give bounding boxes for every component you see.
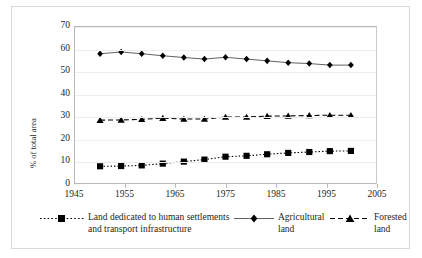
data-point-marker [202, 56, 208, 63]
legend-item-settlements[interactable]: Land dedicated to human settlements and … [40, 212, 240, 235]
y-tick-label: 40 [44, 89, 70, 99]
legend-label-settlements-line2: and transport infrastructure [88, 224, 240, 236]
y-axis-tick-labels: 010203040506070 [40, 7, 70, 203]
y-tick-label: 20 [44, 134, 70, 144]
gridline [75, 95, 376, 96]
legend-label-forested: Forested land [374, 212, 412, 235]
data-point-marker [160, 52, 166, 59]
legend-label-settlements: Land dedicated to human settlements and … [88, 212, 240, 235]
y-tick-label: 10 [44, 156, 70, 166]
x-tick-mark [226, 184, 227, 188]
legend-label-settlements-line1: Land dedicated to human settlements [88, 212, 229, 222]
data-point-marker [306, 60, 312, 67]
data-point-marker [97, 163, 103, 169]
data-point-marker [244, 56, 250, 63]
legend-item-forested[interactable]: Forested land [330, 212, 412, 235]
legend-label-agricultural: Agricultural land [278, 212, 334, 235]
legend-label-forested-line1: Forested [374, 212, 407, 222]
x-tick-label: 2005 [357, 189, 397, 199]
data-point-marker [243, 153, 249, 159]
data-point-marker [264, 58, 270, 65]
chart-legend: Land dedicated to human settlements and … [12, 206, 411, 248]
y-tick-label: 70 [44, 21, 70, 31]
x-tick-label: 1995 [307, 189, 347, 199]
gridline [75, 50, 376, 51]
x-tick-label: 1985 [256, 189, 296, 199]
gridline [75, 140, 376, 141]
legend-label-forested-line2: land [374, 224, 412, 236]
data-point-marker [285, 150, 291, 156]
data-point-marker [223, 54, 229, 61]
y-tick-label: 60 [44, 44, 70, 54]
data-point-marker [285, 59, 291, 66]
x-tick-label: 1975 [206, 189, 246, 199]
legend-key-dashed-triangle-icon [330, 213, 370, 224]
x-tick-mark [125, 184, 126, 188]
plot-area [74, 26, 377, 184]
data-point-marker [306, 149, 312, 155]
chart-figure: % of total area 010203040506070 19451955… [11, 6, 410, 249]
legend-key-dotted-square-icon [40, 213, 84, 224]
data-point-marker [181, 54, 187, 61]
data-point-marker [118, 163, 124, 169]
x-tick-mark [327, 184, 328, 188]
x-axis-tick-labels: 1945195519651975198519952005 [12, 185, 411, 203]
x-tick-label: 1965 [155, 189, 195, 199]
y-axis-title-text: % of total area [28, 118, 38, 168]
data-point-marker [327, 62, 333, 69]
x-tick-label: 1955 [105, 189, 145, 199]
gridline [75, 72, 376, 73]
series-1 [97, 148, 354, 169]
legend-item-agricultural[interactable]: Agricultural land [234, 212, 334, 235]
legend-label-agricultural-line1: Agricultural [278, 212, 324, 222]
data-point-marker [222, 154, 228, 160]
data-point-marker [264, 151, 270, 157]
data-point-marker [97, 50, 103, 57]
legend-label-agricultural-line2: land [278, 224, 334, 236]
x-tick-mark [276, 184, 277, 188]
data-point-marker [139, 50, 145, 57]
y-axis-title: % of total area [22, 67, 34, 147]
gridline [75, 117, 376, 118]
y-tick-label: 30 [44, 111, 70, 121]
series-2 [97, 49, 354, 69]
gridline [75, 162, 376, 163]
gridline [75, 27, 376, 28]
plot-area-wrapper: % of total area 010203040506070 19451955… [12, 7, 411, 203]
x-tick-mark [175, 184, 176, 188]
legend-key-solid-diamond-icon [234, 213, 274, 224]
x-tick-label: 1945 [54, 189, 94, 199]
x-tick-mark [377, 184, 378, 188]
y-tick-label: 50 [44, 66, 70, 76]
data-point-marker [348, 62, 354, 69]
data-point-marker [327, 148, 333, 154]
data-point-marker [348, 148, 354, 154]
